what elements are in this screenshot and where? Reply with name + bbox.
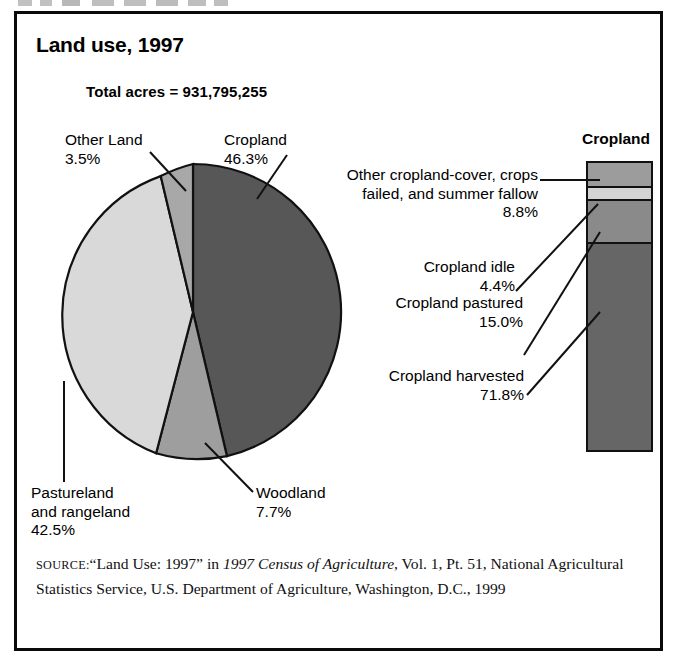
pie-label-cropland: Cropland 46.3% (224, 131, 287, 168)
bar-segment-cropland-idle (588, 188, 651, 201)
page-text-sliver (18, 0, 228, 6)
source-prefix: SOURCE: (36, 558, 90, 572)
bar-label-cropland-pastured: Cropland pastured 15.0% (228, 294, 523, 331)
bar-segment-other-cropland-cover (588, 163, 651, 188)
total-acres-label: Total acres = 931,795,255 (86, 83, 267, 100)
source-part1: “Land Use: 1997” in (90, 555, 223, 572)
bar-segment-cropland-harvested (588, 244, 651, 450)
bar-chart-header: Cropland (566, 130, 666, 148)
bar-label-cropland-idle: Cropland idle 4.4% (228, 258, 515, 295)
bar-label-cropland-harvested: Cropland harvested 71.8% (228, 367, 524, 404)
bar-label-other-cropland-cover: Other cropland-cover, crops failed, and … (228, 166, 538, 222)
pie-label-other-land: Other Land 3.5% (65, 131, 143, 168)
pie-label-woodland: Woodland 7.7% (256, 484, 326, 521)
cropland-stacked-bar (586, 161, 653, 452)
pie-label-pastureland: Pastureland and rangeland 42.5% (31, 484, 130, 540)
bar-segment-cropland-pastured (588, 201, 651, 244)
source-citation: SOURCE:“Land Use: 1997” in 1997 Census o… (36, 552, 636, 600)
source-title-italic: 1997 Census of Agriculture (223, 555, 394, 572)
figure-title: Land use, 1997 (36, 33, 184, 57)
